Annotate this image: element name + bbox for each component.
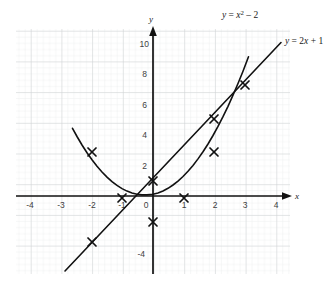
x-tick-label: 3 xyxy=(243,200,248,210)
line-label-tail: + 1 xyxy=(308,36,323,46)
y-tick-label: 10 xyxy=(140,39,150,49)
x-tick-label: -3 xyxy=(57,200,65,210)
x-tick-label: -2 xyxy=(88,200,96,210)
y-axis-name-label: y xyxy=(148,14,153,24)
line-label-eq: = 2 xyxy=(289,36,304,46)
parabola-equation-label: y = x2 – 2 xyxy=(221,9,258,20)
parabola-label-eq: = xyxy=(226,10,236,20)
x-tick-label: 2 xyxy=(213,200,218,210)
x-tick-label: -4 xyxy=(26,200,34,210)
x-tick-label: 1 xyxy=(182,200,187,210)
y-tick-label: 4 xyxy=(142,130,147,140)
graph-figure: -4 -3 -2 -1 0 1 2 3 4 -4 2 4 6 8 10 x y xyxy=(0,0,335,282)
coordinate-graph: -4 -3 -2 -1 0 1 2 3 4 -4 2 4 6 8 10 x y xyxy=(0,0,335,282)
x-tick-label: 0 xyxy=(144,200,149,210)
y-tick-label: 8 xyxy=(142,69,147,79)
parabola-label-tail: – 2 xyxy=(244,10,259,20)
y-tick-label: 6 xyxy=(142,100,147,110)
x-tick-label: 4 xyxy=(274,200,279,210)
line-equation-label: y = 2x + 1 xyxy=(284,36,323,46)
x-axis-name-label: x xyxy=(294,191,299,201)
y-tick-label: 2 xyxy=(142,161,147,171)
y-tick-label: -4 xyxy=(137,249,145,259)
